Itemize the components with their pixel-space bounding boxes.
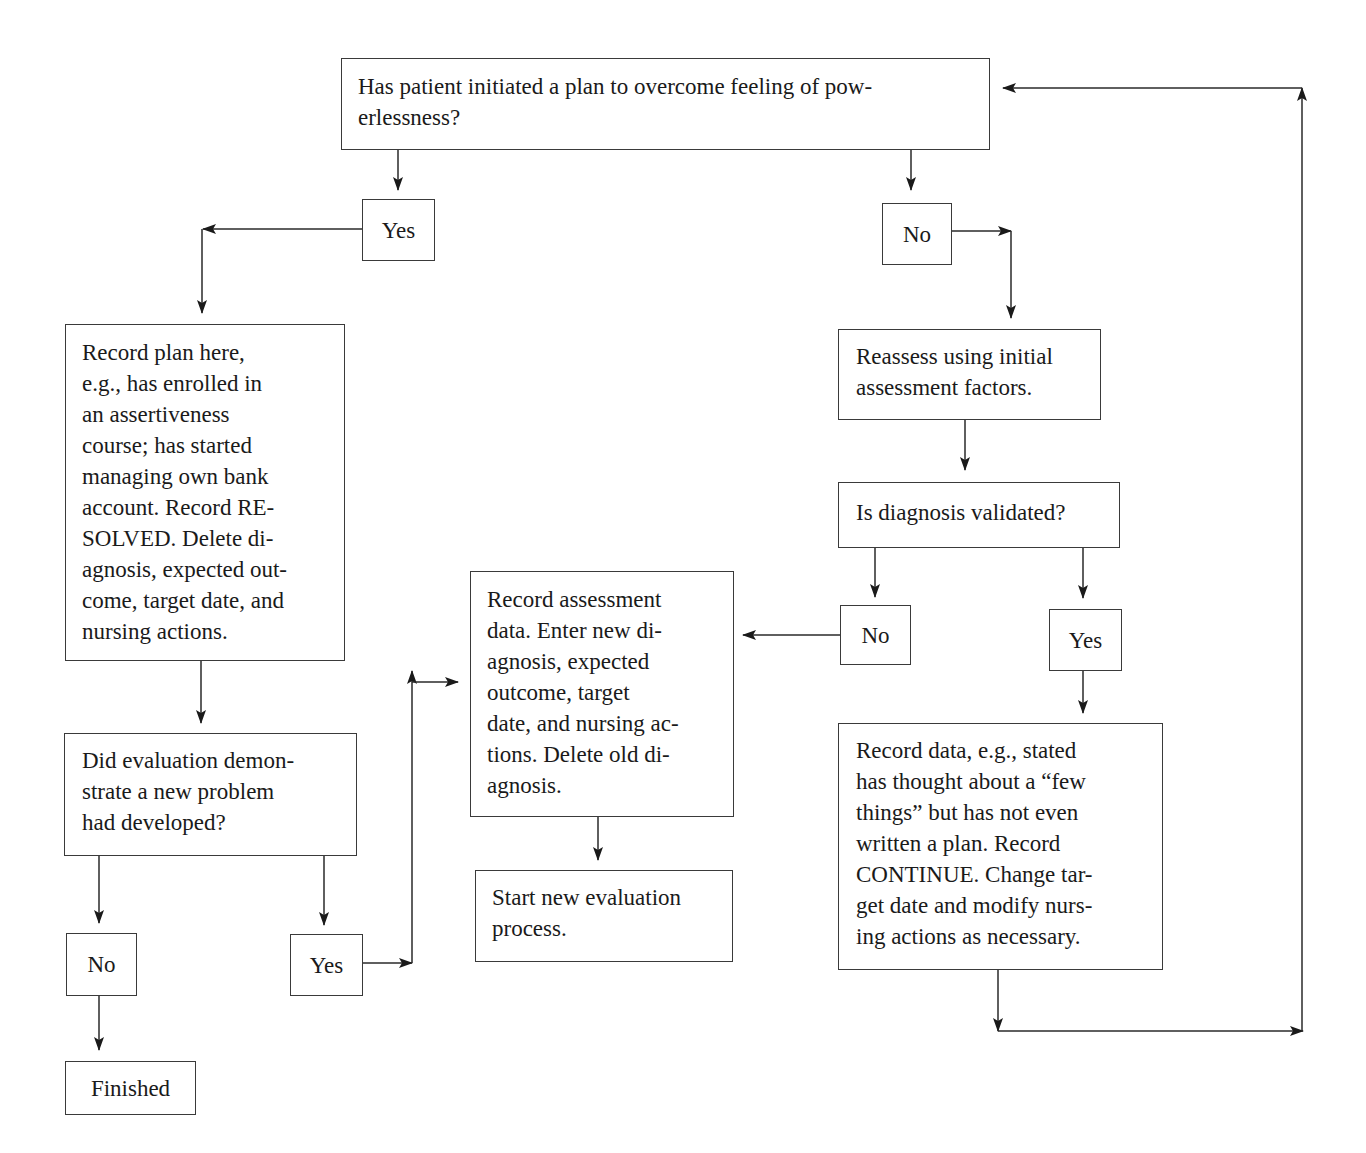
action-record-data-continue-text: Record data, e.g., stated has thought ab… — [856, 735, 1145, 952]
answer-yes-validated: Yes — [1049, 609, 1122, 671]
terminal-finished-text: Finished — [91, 1073, 170, 1104]
answer-yes-plan-text: Yes — [382, 215, 415, 246]
answer-no-plan: No — [882, 203, 952, 265]
action-reassess: Reassess using initial assessment factor… — [838, 329, 1101, 420]
action-reassess-text: Reassess using initial assessment factor… — [856, 341, 1083, 403]
answer-yes-new-problem: Yes — [290, 934, 363, 996]
action-record-assessment-text: Record assessment data. Enter new di- ag… — [487, 584, 717, 801]
question-new-problem-text: Did evaluation demon- strate a new probl… — [82, 745, 339, 838]
action-record-plan-resolved: Record plan here, e.g., has enrolled in … — [65, 324, 345, 661]
action-start-new-evaluation: Start new evaluation process. — [475, 870, 733, 962]
answer-yes-new-problem-text: Yes — [310, 950, 343, 981]
question-diagnosis-validated-text: Is diagnosis validated? — [856, 497, 1102, 528]
question-plan-initiated-text: Has patient initiated a plan to overcome… — [358, 71, 973, 133]
answer-no-validated: No — [840, 605, 911, 665]
answer-no-new-problem-text: No — [87, 949, 115, 980]
answer-no-plan-text: No — [903, 219, 931, 250]
question-new-problem: Did evaluation demon- strate a new probl… — [64, 733, 357, 856]
question-plan-initiated: Has patient initiated a plan to overcome… — [341, 58, 990, 150]
action-record-plan-resolved-text: Record plan here, e.g., has enrolled in … — [82, 337, 328, 647]
flowchart-canvas: Has patient initiated a plan to overcome… — [0, 0, 1366, 1153]
answer-yes-plan: Yes — [362, 199, 435, 261]
action-record-data-continue: Record data, e.g., stated has thought ab… — [838, 723, 1163, 970]
answer-no-new-problem: No — [66, 933, 137, 996]
question-diagnosis-validated: Is diagnosis validated? — [838, 482, 1120, 548]
answer-yes-validated-text: Yes — [1069, 625, 1102, 656]
action-start-new-evaluation-text: Start new evaluation process. — [492, 882, 716, 944]
terminal-finished: Finished — [65, 1061, 196, 1115]
answer-no-validated-text: No — [861, 620, 889, 651]
action-record-assessment: Record assessment data. Enter new di- ag… — [470, 571, 734, 817]
